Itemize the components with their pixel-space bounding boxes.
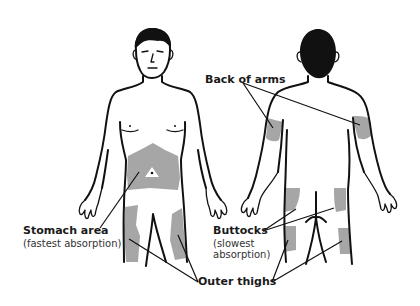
front-nose xyxy=(151,54,154,62)
back-right-thigh-zone xyxy=(338,228,350,254)
label-buttocks-sub-1: (slowest xyxy=(213,238,270,250)
front-left-eye xyxy=(142,51,148,52)
front-right-eye xyxy=(157,51,163,52)
leader-back-of-arms-right xyxy=(243,83,360,125)
injection-sites-diagram: Back of arms Stomach area (fastest absor… xyxy=(0,0,420,306)
front-left-pec xyxy=(122,130,138,132)
front-left-nipple xyxy=(129,125,131,127)
body-figures xyxy=(0,0,420,306)
label-stomach-area-title: Stomach area xyxy=(23,225,121,238)
back-left-buttock-zone xyxy=(284,188,300,212)
back-head xyxy=(300,29,336,78)
leader-thigh-back-right xyxy=(272,241,342,282)
label-stomach-area-sub: (fastest absorption) xyxy=(23,238,121,250)
navel-dot xyxy=(151,172,154,175)
stomach-zone xyxy=(127,143,180,190)
front-left-inner-arm xyxy=(102,150,108,188)
back-right-hand xyxy=(364,172,397,213)
front-right-pec xyxy=(167,130,183,132)
label-stomach-area: Stomach area (fastest absorption) xyxy=(23,225,121,249)
label-outer-thighs: Outer thighs xyxy=(198,276,276,289)
label-buttocks: Buttocks (slowest absorption) xyxy=(213,225,270,261)
label-buttocks-title: Buttocks xyxy=(213,225,270,238)
back-inner-legs xyxy=(306,218,326,264)
back-left-hand xyxy=(241,172,278,217)
label-outer-thighs-title: Outer thighs xyxy=(198,276,276,289)
front-right-nipple xyxy=(174,125,176,127)
label-back-of-arms-title: Back of arms xyxy=(205,74,286,87)
back-right-buttock-zone xyxy=(334,188,346,212)
leader-back-of-arms-left xyxy=(243,83,273,128)
label-back-of-arms: Back of arms xyxy=(205,74,286,87)
front-hair xyxy=(136,28,171,48)
label-buttocks-sub-2: absorption) xyxy=(213,249,270,261)
front-inner-legs xyxy=(146,214,166,266)
front-left-thigh-zone xyxy=(124,205,140,262)
